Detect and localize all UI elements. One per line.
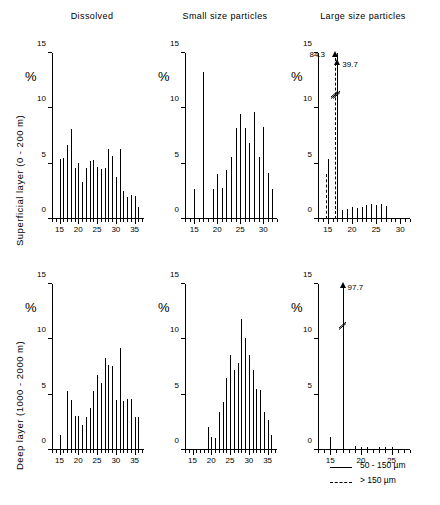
- y-tick-label: 15: [288, 39, 312, 48]
- x-tick: [60, 450, 61, 455]
- panel-6: 051015%15202597.7: [318, 284, 410, 450]
- bar-solid: [337, 53, 338, 219]
- y-tick-label: 5: [155, 150, 179, 159]
- y-axis-unit: %: [25, 300, 36, 315]
- x-tick-label: 15: [318, 225, 338, 234]
- bar-solid: [63, 158, 64, 219]
- x-tick-label: 35: [125, 225, 145, 234]
- y-tick: [314, 283, 318, 284]
- y-tick-label: 0: [155, 205, 179, 214]
- bar-solid: [347, 209, 348, 219]
- y-tick-label: 0: [22, 205, 46, 214]
- bar-solid: [254, 112, 255, 219]
- x-tick: [349, 450, 350, 453]
- bar-solid: [361, 447, 362, 450]
- x-tick: [82, 450, 83, 453]
- y-tick-label: 10: [22, 325, 46, 334]
- x-tick: [217, 219, 218, 224]
- bar-solid: [82, 425, 83, 450]
- bar-solid: [123, 191, 124, 219]
- x-tick: [404, 450, 405, 453]
- x-tick: [185, 450, 186, 453]
- bar-solid: [120, 348, 121, 450]
- bar-solid: [245, 338, 246, 450]
- x-tick: [234, 450, 235, 453]
- bar-solid: [138, 417, 139, 450]
- column-title-large-size-particles: Large size particles: [298, 11, 428, 21]
- x-tick: [392, 450, 393, 455]
- x-tick: [226, 450, 227, 453]
- bar-solid: [245, 128, 246, 219]
- x-tick: [213, 219, 214, 222]
- x-tick: [208, 450, 209, 453]
- y-tick: [181, 107, 185, 108]
- bar-solid: [90, 161, 91, 219]
- x-tick: [86, 219, 87, 222]
- x-tick: [90, 219, 91, 222]
- bar-solid: [90, 408, 91, 450]
- x-tick: [318, 219, 319, 222]
- bar-solid: [101, 383, 102, 451]
- y-tick: [181, 163, 185, 164]
- bar-solid: [240, 114, 241, 219]
- x-tick: [223, 450, 224, 453]
- bar-solid: [256, 389, 257, 450]
- panel-2: 051015%15202530: [185, 53, 277, 219]
- overflow-arrow-icon: [334, 59, 340, 65]
- x-tick: [241, 450, 242, 453]
- x-tick: [367, 450, 368, 453]
- bar-solid: [226, 170, 227, 219]
- bar-solid: [249, 143, 250, 219]
- x-tick: [386, 219, 387, 222]
- x-tick: [208, 219, 209, 222]
- bar-solid: [203, 72, 204, 219]
- bar-solid: [259, 157, 260, 219]
- x-tick: [256, 450, 257, 453]
- x-tick: [400, 219, 401, 224]
- x-tick-label: 15: [320, 456, 340, 465]
- x-tick-label: 15: [50, 225, 70, 234]
- x-tick: [253, 450, 254, 453]
- bar-solid: [112, 366, 113, 450]
- x-tick: [362, 219, 363, 222]
- y-tick-label: 0: [288, 205, 312, 214]
- bar-solid: [253, 370, 254, 450]
- y-tick: [48, 394, 52, 395]
- x-tick: [116, 219, 117, 224]
- x-tick: [71, 450, 72, 453]
- x-tick: [347, 219, 348, 222]
- x-tick: [328, 219, 329, 224]
- y-tick: [314, 338, 318, 339]
- bar-solid: [357, 208, 358, 219]
- x-tick: [245, 219, 246, 222]
- overflow-value-label: 84.3: [309, 50, 325, 59]
- x-tick: [337, 219, 338, 222]
- bar-solid: [67, 145, 68, 219]
- x-tick: [260, 450, 261, 453]
- y-tick: [181, 52, 185, 53]
- x-tick: [245, 450, 246, 453]
- x-tick: [52, 219, 53, 222]
- bar-solid: [366, 205, 367, 219]
- y-tick: [181, 394, 185, 395]
- y-axis: [52, 53, 53, 219]
- x-tick-label: 30: [239, 456, 259, 465]
- x-tick: [196, 450, 197, 453]
- x-tick-label: 15: [184, 225, 204, 234]
- x-tick: [108, 219, 109, 222]
- x-tick: [86, 450, 87, 453]
- x-tick-label: 35: [125, 456, 145, 465]
- x-tick: [366, 219, 367, 222]
- bar-solid: [219, 412, 220, 450]
- bar-solid: [78, 163, 79, 219]
- y-tick: [314, 394, 318, 395]
- bar-solid: [249, 355, 250, 450]
- bar-solid: [135, 417, 136, 450]
- x-tick: [318, 450, 319, 453]
- x-tick: [342, 219, 343, 222]
- x-tick: [194, 219, 195, 224]
- x-tick-label: 35: [258, 456, 278, 465]
- bar-solid: [371, 204, 372, 219]
- x-tick: [60, 219, 61, 224]
- x-tick: [254, 219, 255, 222]
